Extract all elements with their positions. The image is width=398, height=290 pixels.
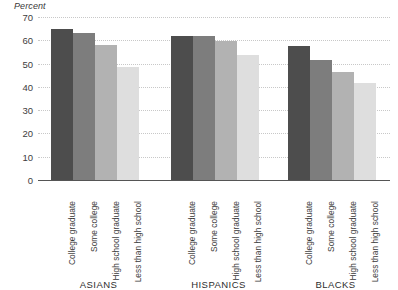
bar <box>332 72 354 180</box>
bar <box>237 55 259 180</box>
category-label-slot: Less than high school <box>354 200 376 272</box>
plot-area: 010203040506070 College graduateSome col… <box>38 17 390 180</box>
y-axis-tick-label: 60 <box>22 35 33 46</box>
y-axis-tick-label: 50 <box>22 58 33 69</box>
y-axis-tick-label: 0 <box>28 175 33 186</box>
bar <box>117 67 139 180</box>
category-label-slot: Some college <box>310 200 332 272</box>
category-label-slot: Some college <box>73 200 95 272</box>
bar <box>171 36 193 180</box>
bars-row <box>51 17 146 180</box>
bar <box>215 41 237 180</box>
bars-row <box>171 17 266 180</box>
category-label: Less than high school <box>253 201 263 282</box>
bar-group: College graduateSome collegeHigh school … <box>51 17 146 180</box>
y-axis-tick-label: 70 <box>22 12 33 23</box>
category-label: Less than high school <box>370 201 380 282</box>
category-label-slot: Less than high school <box>237 200 259 272</box>
y-axis-tick-label: 40 <box>22 81 33 92</box>
group-name-label: HISPANICS <box>171 279 266 290</box>
group-name-label: BLACKS <box>288 279 383 290</box>
bar <box>73 33 95 180</box>
category-label-slot: High school graduate <box>332 200 354 272</box>
group-name-label: ASIANS <box>51 279 146 290</box>
bar <box>193 36 215 180</box>
bar <box>51 29 73 180</box>
category-labels: College graduateSome collegeHigh school … <box>51 200 139 272</box>
category-label-slot: College graduate <box>171 200 193 272</box>
category-labels: College graduateSome collegeHigh school … <box>288 200 376 272</box>
x-axis-line <box>38 180 390 181</box>
bar <box>95 45 117 180</box>
category-label-slot: College graduate <box>51 200 73 272</box>
bars-row <box>288 17 383 180</box>
bar-group: College graduateSome collegeHigh school … <box>288 17 383 180</box>
category-label-slot: High school graduate <box>215 200 237 272</box>
y-axis-tick-label: 30 <box>22 105 33 116</box>
y-axis-unit-label: Percent <box>14 1 46 11</box>
y-axis-tick-label: 10 <box>22 151 33 162</box>
category-label-slot: Some college <box>193 200 215 272</box>
category-label-slot: Less than high school <box>117 200 139 272</box>
category-labels: College graduateSome collegeHigh school … <box>171 200 259 272</box>
bar <box>354 83 376 180</box>
category-label: Less than high school <box>133 201 143 282</box>
bar-group: College graduateSome collegeHigh school … <box>171 17 266 180</box>
y-axis-tick-label: 20 <box>22 128 33 139</box>
category-label-slot: College graduate <box>288 200 310 272</box>
category-label-slot: High school graduate <box>95 200 117 272</box>
bar <box>310 60 332 180</box>
bar <box>288 46 310 180</box>
